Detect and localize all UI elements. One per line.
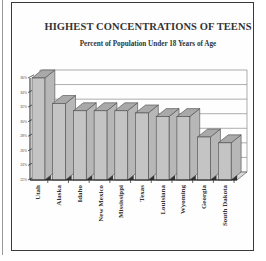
bar-chart: 22%24%26%28%30%32%34%36% UtahAlaskaIdaho…: [0, 0, 266, 261]
bar-texas: [136, 105, 159, 180]
x-axis-labels: UtahAlaskaIdahoNew MexicoMississippiTexa…: [30, 180, 237, 226]
bar-wyoming: [177, 109, 200, 180]
y-tick-label: 22%: [20, 178, 27, 182]
y-tick-label: 30%: [20, 120, 27, 124]
bar-georgia: [198, 129, 221, 180]
x-category-label: Mississippi: [117, 185, 125, 218]
x-category-label: Louisiana: [159, 185, 167, 215]
bar-louisiana: [156, 109, 179, 180]
x-category-label: New Mexico: [97, 185, 105, 222]
bar-alaska: [53, 96, 76, 181]
bars: [32, 70, 241, 180]
bar-new-mexico: [94, 103, 117, 180]
y-tick-label: 26%: [20, 149, 27, 153]
x-category-label: Alaska: [55, 185, 63, 206]
x-category-label: Wyoming: [179, 185, 187, 214]
x-category-label: Texas: [138, 185, 146, 202]
x-category-label: Idaho: [76, 185, 84, 203]
bar-south-dakota: [218, 135, 241, 180]
x-category-label: Georgia: [200, 185, 208, 210]
y-tick-label: 34%: [20, 91, 27, 95]
y-tick-label: 36%: [20, 76, 27, 80]
bar-utah: [32, 70, 55, 180]
bar-idaho: [73, 103, 96, 180]
x-category-label: South Dakota: [221, 185, 229, 227]
x-category-label: Utah: [34, 185, 42, 200]
bar-mississippi: [115, 103, 138, 180]
y-tick-label: 32%: [20, 105, 27, 109]
y-tick-label: 24%: [20, 163, 27, 167]
y-tick-label: 28%: [20, 134, 27, 138]
